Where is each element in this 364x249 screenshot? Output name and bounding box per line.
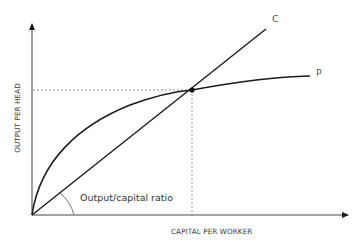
label-c: C	[272, 13, 279, 24]
growth-diagram: C P Output/capital ratio CAPITAL PER WOR…	[0, 0, 364, 249]
y-axis-label: OUTPUT PER HEAD	[13, 83, 22, 153]
label-p: P	[316, 67, 322, 78]
intersection-point	[189, 87, 194, 92]
line-c	[32, 29, 266, 215]
angle-label: Output/capital ratio	[80, 192, 173, 203]
x-axis-label: CAPITAL PER WORKER	[171, 227, 252, 236]
angle-arc	[60, 193, 74, 215]
